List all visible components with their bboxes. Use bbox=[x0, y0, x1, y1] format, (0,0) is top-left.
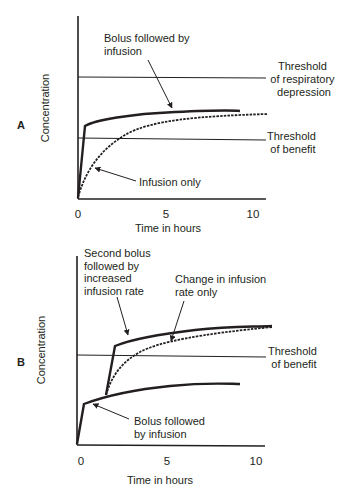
panel-b: B Concentration Second bolus followed by… bbox=[17, 247, 320, 486]
panel-a-tick-10: 10 bbox=[247, 208, 260, 220]
panel-a-arrow-bolus bbox=[148, 60, 172, 108]
panel-a-y-axis-label: Concentration bbox=[39, 74, 51, 143]
panel-a-threshold-respiratory-line bbox=[78, 77, 266, 78]
panel-a-threshold-benefit-line bbox=[78, 138, 266, 140]
panel-a-tick-5: 5 bbox=[163, 208, 169, 220]
panel-a-annotation-infusion: Infusion only bbox=[139, 176, 201, 188]
panel-a-threshold-benefit-label: Threshold of benefit bbox=[267, 130, 319, 155]
panel-b-arrow-bolus bbox=[93, 404, 129, 419]
panel-b-annotation-second-bolus: Second bolus followed by increased infus… bbox=[84, 247, 154, 297]
panel-a-arrow-infusion bbox=[95, 168, 136, 181]
panel-a-tick-0: 0 bbox=[75, 208, 81, 220]
panel-b-tick-10: 10 bbox=[250, 455, 263, 467]
panel-b-tick-0: 0 bbox=[78, 455, 84, 467]
panel-a-x-axis-label: Time in hours bbox=[135, 222, 202, 234]
panel-b-arrow-second-bolus bbox=[117, 297, 128, 335]
panel-b-tick-5: 5 bbox=[164, 455, 170, 467]
panel-b-annotation-bolus: Bolus followed by infusion bbox=[134, 415, 208, 440]
panel-a-letter: A bbox=[17, 119, 25, 131]
panel-b-arrow-change-rate bbox=[171, 301, 184, 341]
panel-a-threshold-respiratory-label: Threshold of respiratory depression bbox=[270, 60, 337, 98]
panel-a-annotation-bolus: Bolus followed by infusion bbox=[104, 32, 193, 57]
panel-a: A Concentration Bolus followed by infusi… bbox=[17, 16, 338, 234]
panel-b-x-axis-label: Time in hours bbox=[127, 474, 194, 486]
panel-b-y-axis-label: Concentration bbox=[35, 316, 47, 385]
panel-b-threshold-benefit-line bbox=[77, 355, 266, 357]
figure: A Concentration Bolus followed by infusi… bbox=[0, 0, 350, 497]
panel-b-threshold-benefit-label: Threshold of benefit bbox=[268, 345, 320, 370]
panel-b-annotation-change-rate: Change in infusion rate only bbox=[175, 273, 269, 298]
panel-b-letter: B bbox=[17, 356, 25, 368]
panel-b-x-axis bbox=[77, 445, 265, 446]
